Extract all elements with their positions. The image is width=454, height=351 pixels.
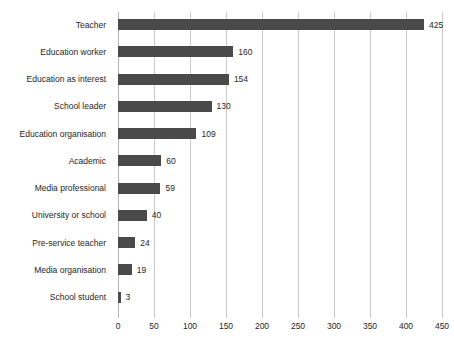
bar-value-label: 60 xyxy=(166,154,175,168)
y-axis-category-labels: TeacherEducation workerEducation as inte… xyxy=(0,12,112,312)
bar xyxy=(118,237,135,248)
x-tick-label: 50 xyxy=(137,320,171,333)
category-label: Media organisation xyxy=(0,263,112,277)
bar-row: 59 xyxy=(118,176,436,202)
x-tick-label: 250 xyxy=(281,320,315,333)
bar-row: 130 xyxy=(118,94,436,120)
category-label: Education worker xyxy=(0,45,112,59)
bar-value-label: 59 xyxy=(165,181,174,195)
bar xyxy=(118,155,161,166)
bar xyxy=(118,264,132,275)
x-tick-label: 200 xyxy=(245,320,279,333)
bar xyxy=(118,292,121,303)
category-label: Education organisation xyxy=(0,127,112,141)
bar-row: 24 xyxy=(118,230,436,256)
bar-row: 40 xyxy=(118,203,436,229)
category-label: Pre-service teacher xyxy=(0,236,112,250)
x-tick-label: 400 xyxy=(389,320,423,333)
bar xyxy=(118,101,212,112)
bar-value-label: 24 xyxy=(140,236,149,250)
x-tick-label: 300 xyxy=(317,320,351,333)
x-axis-tick-labels: 050100150200250300350400450 xyxy=(0,320,449,336)
x-tick-label: 450 xyxy=(425,320,454,333)
x-tick-label: 150 xyxy=(209,320,243,333)
category-label: Academic xyxy=(0,154,112,168)
bar xyxy=(118,74,229,85)
x-tick-label: 100 xyxy=(173,320,207,333)
x-tick-label: 350 xyxy=(353,320,387,333)
bar-row: 60 xyxy=(118,148,436,174)
plot-area: 42516015413010960594024193 xyxy=(118,12,436,312)
bar xyxy=(118,46,233,57)
bar-value-label: 109 xyxy=(201,127,215,141)
category-label: Teacher xyxy=(0,18,112,32)
bar-value-label: 160 xyxy=(238,45,252,59)
bar xyxy=(118,19,424,30)
bar-row: 109 xyxy=(118,121,436,147)
bar-value-label: 130 xyxy=(217,99,231,113)
bar-value-label: 425 xyxy=(429,18,443,32)
category-label: Education as interest xyxy=(0,72,112,86)
bar-row: 154 xyxy=(118,67,436,93)
bar xyxy=(118,210,147,221)
bar-value-label: 19 xyxy=(137,263,146,277)
bar-row: 19 xyxy=(118,257,436,283)
gridline-450 xyxy=(442,12,443,318)
bar xyxy=(118,128,196,139)
bar-row: 160 xyxy=(118,39,436,65)
bar-row: 425 xyxy=(118,12,436,38)
category-label: University or school xyxy=(0,208,112,222)
bar xyxy=(118,183,160,194)
category-label: Media professional xyxy=(0,181,112,195)
category-label: School leader xyxy=(0,99,112,113)
bar-value-label: 40 xyxy=(152,208,161,222)
bar-value-label: 3 xyxy=(126,290,131,304)
bar-row: 3 xyxy=(118,285,436,311)
x-tick-label: 0 xyxy=(101,320,135,333)
category-label: School student xyxy=(0,290,112,304)
bar-value-label: 154 xyxy=(234,72,248,86)
